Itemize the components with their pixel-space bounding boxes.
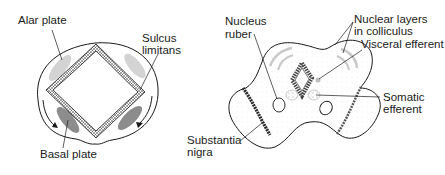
label-nuclear-layers-2: in colliculus: [354, 25, 413, 38]
label-visceral-efferent: Visceral efferent: [361, 38, 444, 51]
leader-alar: [52, 30, 62, 60]
somatic-efferent-left: [286, 90, 298, 100]
label-sulcus-limitans-2: limitans: [142, 44, 181, 57]
label-nucleus-ruber-2: ruber: [225, 28, 252, 41]
label-nucleus-ruber-1: Nucleus: [225, 15, 267, 28]
label-somatic-efferent-2: efferent: [383, 103, 422, 116]
label-alar-plate: Alar plate: [18, 14, 67, 27]
label-basal-plate: Basal plate: [40, 148, 97, 161]
label-substantia-nigra-2: nigra: [187, 146, 213, 159]
spinal-cord-section: [38, 30, 159, 148]
nucleus-ruber-left: [273, 98, 285, 112]
